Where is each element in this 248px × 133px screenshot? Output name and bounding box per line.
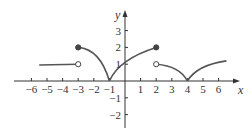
x-tick-label: 1 <box>138 83 144 95</box>
x-tick-label: −4 <box>57 83 69 95</box>
function-graph: −6−5−4−3−2−1123456321−1−2 x y <box>0 0 248 133</box>
axes <box>14 10 240 128</box>
function-curves <box>39 47 226 81</box>
x-tick-label: −6 <box>26 83 38 95</box>
curve-piece-2 <box>78 47 109 81</box>
y-tick-label: −1 <box>109 92 121 104</box>
x-tick-label: 2 <box>153 83 159 95</box>
y-tick-label: 3 <box>116 25 122 37</box>
x-tick-label: 3 <box>169 83 175 95</box>
x-tick-label: −5 <box>41 83 53 95</box>
y-tick-label: −2 <box>109 109 121 121</box>
closed-dot <box>154 45 159 50</box>
closed-dot <box>76 45 81 50</box>
open-dot <box>76 62 81 67</box>
y-tick-label: 1 <box>116 58 122 70</box>
y-tick-label: 2 <box>116 41 122 53</box>
open-dot <box>154 62 159 67</box>
x-axis-label: x <box>237 83 244 97</box>
curve-piece-5 <box>187 61 226 81</box>
x-tick-label: −2 <box>88 83 100 95</box>
graph-figure: −6−5−4−3−2−1123456321−1−2 x y <box>0 0 248 133</box>
curve-piece-1 <box>39 64 78 65</box>
x-tick-label: 4 <box>185 83 191 95</box>
tick-labels: −6−5−4−3−2−1123456321−1−2 <box>26 25 222 121</box>
y-axis-arrow-icon <box>123 10 128 17</box>
x-tick-label: −3 <box>72 83 84 95</box>
x-tick-label: 6 <box>216 83 222 95</box>
x-tick-label: 5 <box>200 83 206 95</box>
y-axis-label: y <box>114 8 121 22</box>
